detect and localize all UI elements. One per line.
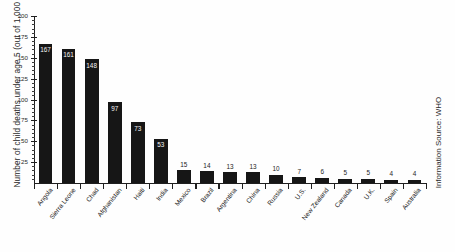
plot-area: 255075100125150175200 167161148977353151… bbox=[34, 16, 426, 183]
x-axis-tick bbox=[103, 183, 104, 189]
bar: 161 bbox=[62, 49, 76, 183]
x-axis-tick bbox=[80, 183, 81, 189]
y-axis-tick-label: 200 bbox=[18, 13, 28, 19]
y-axis-tick: 125 bbox=[31, 79, 37, 80]
y-axis-minor-tick bbox=[32, 24, 36, 25]
y-axis-tick: 50 bbox=[31, 141, 37, 142]
bar: 15 bbox=[177, 170, 191, 183]
y-axis-minor-tick bbox=[32, 129, 36, 130]
bar: 6 bbox=[315, 178, 329, 183]
bar-value-label: 13 bbox=[249, 164, 256, 170]
bar: 5 bbox=[338, 179, 352, 183]
bar-value-label: 14 bbox=[203, 163, 210, 169]
x-axis-tick bbox=[218, 183, 219, 189]
x-axis-tick bbox=[126, 183, 127, 189]
y-axis-minor-tick bbox=[32, 108, 36, 109]
y-axis-tick-label: 50 bbox=[21, 138, 28, 144]
x-axis-tick-label: India bbox=[155, 187, 169, 202]
bar: 10 bbox=[269, 175, 283, 183]
y-axis-tick-label: 75 bbox=[21, 117, 28, 123]
information-source-note: Information Source: WHO bbox=[434, 63, 443, 223]
y-axis-tick-label: 150 bbox=[18, 55, 28, 61]
y-axis-tick: 150 bbox=[31, 58, 37, 59]
y-axis-minor-tick bbox=[32, 166, 36, 167]
bar-value-label: 5 bbox=[367, 170, 371, 176]
x-axis-tick-label: Argentina bbox=[216, 187, 239, 213]
bar-value-label: 4 bbox=[413, 171, 417, 177]
x-axis-tick-label: U.S. bbox=[294, 187, 307, 201]
y-axis-minor-tick bbox=[32, 112, 36, 113]
y-axis-minor-tick bbox=[32, 62, 36, 63]
y-axis-minor-tick bbox=[32, 29, 36, 30]
y-axis-minor-tick bbox=[32, 33, 36, 34]
y-axis-minor-tick bbox=[32, 91, 36, 92]
y-axis-tick: 75 bbox=[31, 120, 37, 121]
bar-value-label: 167 bbox=[40, 47, 51, 53]
x-axis-tick-label: Australia bbox=[402, 187, 423, 211]
x-axis-tick bbox=[242, 183, 243, 189]
x-axis-tick-label: Canada bbox=[334, 187, 353, 209]
y-axis-tick-label: 100 bbox=[18, 96, 28, 102]
x-axis-tick-label: Mexico bbox=[174, 187, 192, 208]
bar: 7 bbox=[292, 177, 306, 183]
x-axis-line bbox=[34, 183, 426, 184]
chart-container: Number of child deaths under age 5 (out … bbox=[0, 0, 455, 252]
x-axis-tick-label: Spain bbox=[384, 187, 400, 204]
bar: 4 bbox=[384, 180, 398, 183]
y-axis-minor-tick bbox=[32, 125, 36, 126]
bar: 14 bbox=[200, 171, 214, 183]
y-axis-minor-tick bbox=[32, 175, 36, 176]
bar-value-label: 6 bbox=[320, 169, 324, 175]
bar-value-label: 97 bbox=[111, 106, 118, 112]
y-axis-minor-tick bbox=[32, 179, 36, 180]
y-axis-minor-tick bbox=[32, 133, 36, 134]
y-axis-minor-tick bbox=[32, 83, 36, 84]
bar-value-label: 53 bbox=[157, 142, 164, 148]
x-axis-tick-label: China bbox=[245, 187, 261, 205]
x-axis-tick-label: U.K. bbox=[363, 187, 376, 201]
y-axis-minor-tick bbox=[32, 87, 36, 88]
x-axis-tick-label: Haiti bbox=[133, 187, 146, 201]
x-axis-tick bbox=[403, 183, 404, 189]
bar: 97 bbox=[108, 102, 122, 183]
y-axis-tick: 100 bbox=[31, 100, 37, 101]
x-axis-tick bbox=[265, 183, 266, 189]
x-axis-tick bbox=[149, 183, 150, 189]
y-axis-tick-label: 25 bbox=[21, 159, 28, 165]
y-axis-minor-tick bbox=[32, 45, 36, 46]
bar: 4 bbox=[408, 180, 422, 183]
x-axis-tick-label: Chad bbox=[85, 187, 100, 203]
y-axis-minor-tick bbox=[32, 41, 36, 42]
bar-value-label: 5 bbox=[344, 170, 348, 176]
y-axis-minor-tick bbox=[32, 150, 36, 151]
x-axis-tick bbox=[357, 183, 358, 189]
x-axis-tick-label: Russia bbox=[267, 187, 285, 207]
x-axis-tick bbox=[57, 183, 58, 189]
y-axis-minor-tick bbox=[32, 170, 36, 171]
bar: 13 bbox=[223, 172, 237, 183]
x-axis-tick bbox=[288, 183, 289, 189]
bar-value-label: 15 bbox=[180, 162, 187, 168]
y-axis-tick: 25 bbox=[31, 162, 37, 163]
bar: 53 bbox=[154, 139, 168, 183]
bar-value-label: 161 bbox=[63, 52, 74, 58]
bar-value-label: 10 bbox=[273, 166, 280, 172]
bar: 167 bbox=[39, 44, 53, 183]
y-axis-minor-tick bbox=[32, 20, 36, 21]
bar-value-label: 7 bbox=[297, 169, 301, 175]
y-axis-minor-tick bbox=[32, 54, 36, 55]
y-axis-minor-tick bbox=[32, 95, 36, 96]
y-axis-tick: 200 bbox=[31, 16, 37, 17]
bar: 5 bbox=[361, 179, 375, 183]
y-axis-minor-tick bbox=[32, 104, 36, 105]
bar: 13 bbox=[246, 172, 260, 183]
y-axis-minor-tick bbox=[32, 66, 36, 67]
bar-value-label: 73 bbox=[134, 126, 141, 132]
x-axis-tick bbox=[426, 183, 427, 189]
x-axis-tick bbox=[195, 183, 196, 189]
x-axis-tick-label: Brazil bbox=[200, 187, 215, 204]
bar: 148 bbox=[85, 59, 99, 183]
bar: 73 bbox=[131, 122, 145, 183]
x-axis-tick bbox=[380, 183, 381, 189]
y-axis-minor-tick bbox=[32, 154, 36, 155]
